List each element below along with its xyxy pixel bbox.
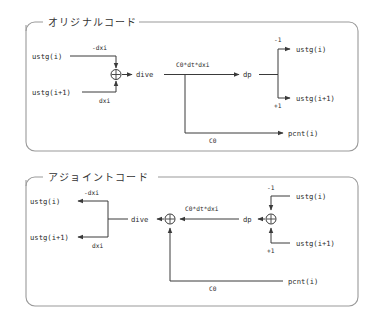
adjoint-wire-out-bottom (78, 201, 108, 237)
original-edge-dive-dp-label: C0*dt*dxi (176, 61, 210, 68)
original-edge-pcnt-label: C0 (209, 137, 217, 144)
original-wire-dive-to-pcnt (185, 75, 283, 134)
adjoint-sum-node-right (266, 214, 276, 224)
panel-adjoint-border-left-cap (26, 177, 43, 186)
original-input-bottom-label: ustg(i+1) (32, 88, 71, 97)
panel-original: オリジナルコード ustg(i) -dxi ustg(i+1) dxi dive… (26, 17, 358, 151)
adjoint-output-bottom-label: ustg(i+1) (30, 233, 69, 242)
adjoint-wire-pcnt-to-node (170, 228, 283, 281)
original-wire-in-bottom (82, 81, 116, 92)
adjoint-input-bottom-label: ustg(i+1) (296, 239, 335, 248)
adjoint-var-dive-label: dive (131, 215, 148, 224)
original-gain-out-top-label: -1 (274, 36, 282, 43)
adjoint-sum-node-left (165, 214, 175, 224)
panel-adjoint-heading: アジョイントコード (48, 172, 149, 183)
original-wire-out-bottom (278, 75, 290, 99)
original-input-top-label: ustg(i) (32, 52, 62, 61)
original-sum-node (111, 70, 121, 80)
panel-adjoint: アジョイントコード ustg(i) ustg(i+1) -dxi dxi div… (26, 172, 358, 306)
original-gain-out-bottom-label: +1 (274, 102, 282, 109)
adjoint-input-pcnt-label: pcnt(i) (288, 277, 318, 286)
original-wire-out-top (278, 49, 290, 75)
adjoint-gain-in-bottom-label: +1 (267, 247, 275, 254)
adjoint-var-dp-label: dp (243, 215, 252, 224)
diagram-figure: オリジナルコード ustg(i) -dxi ustg(i+1) dxi dive… (0, 0, 372, 312)
adjoint-gain-in-top-label: -1 (267, 184, 275, 191)
adjoint-gain-bottom-label: dxi (92, 242, 103, 249)
original-var-dp-label: dp (243, 70, 252, 79)
original-output-top-label: ustg(i) (296, 45, 326, 54)
original-var-dive-label: dive (136, 70, 153, 79)
panel-original-heading: オリジナルコード (48, 17, 138, 28)
original-output-bottom-label: ustg(i+1) (296, 94, 335, 103)
adjoint-output-top-label: ustg(i) (30, 197, 60, 206)
adjoint-edge-pcnt-label: C0 (209, 285, 217, 292)
original-output-pcnt-label: pcnt(i) (288, 129, 318, 138)
original-gain-top-label: -dxi (92, 44, 107, 51)
original-gain-bottom-label: dxi (99, 97, 110, 104)
adjoint-gain-top-label: -dxi (84, 189, 99, 196)
adjoint-wire-in-top (271, 196, 290, 210)
adjoint-input-top-label: ustg(i) (296, 192, 326, 201)
adjoint-wire-in-bottom (271, 228, 290, 243)
original-wire-in-top (70, 56, 116, 68)
panel-original-border-left-cap (26, 22, 43, 31)
adjoint-edge-dp-dive-label: C0*dt*dxi (185, 205, 219, 212)
dataflow-diagram: オリジナルコード ustg(i) -dxi ustg(i+1) dxi dive… (0, 0, 372, 312)
